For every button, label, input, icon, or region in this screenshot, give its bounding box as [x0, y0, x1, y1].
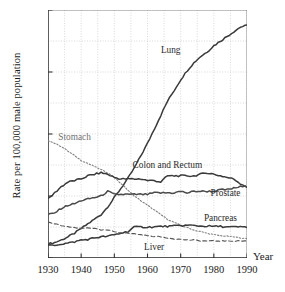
- chart-figure: Rate per 100,000 male population Year Lu…: [0, 0, 285, 292]
- series-label-pancreas: Pancreas: [204, 213, 237, 223]
- series-label-liver: Liver: [144, 242, 165, 252]
- x-tick-label: 1950: [97, 264, 131, 275]
- x-tick-label: 1980: [197, 264, 231, 275]
- x-tick-label: 1990: [230, 264, 264, 275]
- series-label-lung: Lung: [161, 45, 181, 55]
- plot-area: LungStomachColon and RectumProstatePancr…: [48, 10, 247, 258]
- chart-canvas: LungStomachColon and RectumProstatePancr…: [48, 10, 247, 258]
- x-tick-label: 1960: [131, 264, 165, 275]
- x-tick-label: 1940: [64, 264, 98, 275]
- series-label-prostate: Prostate: [211, 188, 241, 198]
- series-label-stomach: Stomach: [58, 132, 91, 142]
- x-tick-label: 1970: [164, 264, 198, 275]
- x-axis-title: Year: [253, 250, 273, 262]
- x-tick-label: 1930: [31, 264, 65, 275]
- series-label-colon-and-rectum: Colon and Rectum: [133, 160, 203, 170]
- y-axis-title: Rate per 100,000 male population: [11, 26, 22, 226]
